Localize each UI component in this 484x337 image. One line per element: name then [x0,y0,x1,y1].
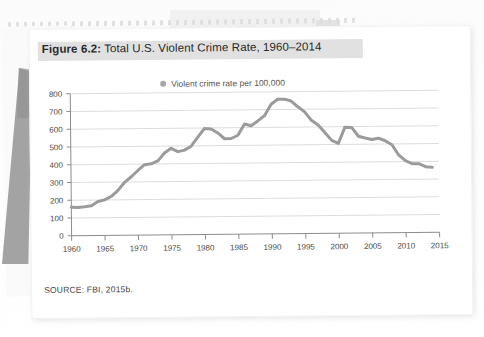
x-axis-tick-label: 1995 [297,242,315,251]
y-axis-tick-label: 500 [49,143,63,152]
x-axis [72,232,440,236]
chart-plot-area: 0100200300400500600700800196019651970197… [30,84,472,278]
figure-title-text: Total U.S. Violent Crime Rate, 1960–2014 [101,40,321,54]
figure-title: Figure 6.2: Total U.S. Violent Crime Rat… [42,39,442,55]
y-axis-tick-label: 600 [49,125,63,134]
figure-title-label: Figure 6.2: [42,42,101,55]
x-axis-tick-label: 2015 [431,241,449,250]
figure-source: SOURCE: FBI, 2015b. [44,284,133,295]
x-axis-tick-label: 2010 [397,241,415,250]
x-axis-tick-label: 1990 [264,243,282,252]
grid-line [70,108,438,112]
y-axis-tick-label: 700 [49,108,63,117]
grid-line [71,197,439,201]
y-axis-tick-label: 400 [50,161,64,170]
screenshot-stage: Figure 6.2: Total U.S. Violent Crime Rat… [0,0,484,337]
violent-crime-rate-line-chart: 0100200300400500600700800196019651970197… [30,84,472,278]
x-axis-tick-label: 2000 [330,242,348,251]
series-line-violent-crime-rate [70,98,432,208]
x-axis-tick-label: 1960 [63,245,81,254]
grid-line [71,143,439,147]
y-axis-tick-label: 0 [59,232,64,241]
grid-line [71,214,439,218]
figure-card: Figure 6.2: Total U.S. Violent Crime Rat… [29,25,474,319]
y-axis [70,94,71,236]
x-axis-tick-label: 1985 [230,243,248,252]
x-axis-tick-label: 1975 [163,244,181,253]
x-axis-tick-label: 1965 [96,244,114,253]
grid-line [71,126,439,130]
grid-line [70,90,438,94]
y-axis-tick-label: 200 [50,196,64,205]
x-axis-tick-label: 1980 [197,243,215,252]
y-axis-tick-label: 300 [50,179,64,188]
x-axis-tick-label: 1970 [130,244,148,253]
grid-line [71,161,439,165]
y-axis-tick-label: 100 [50,214,64,223]
x-axis-tick-label: 2005 [364,242,382,251]
y-axis-tick-label: 800 [49,90,63,99]
